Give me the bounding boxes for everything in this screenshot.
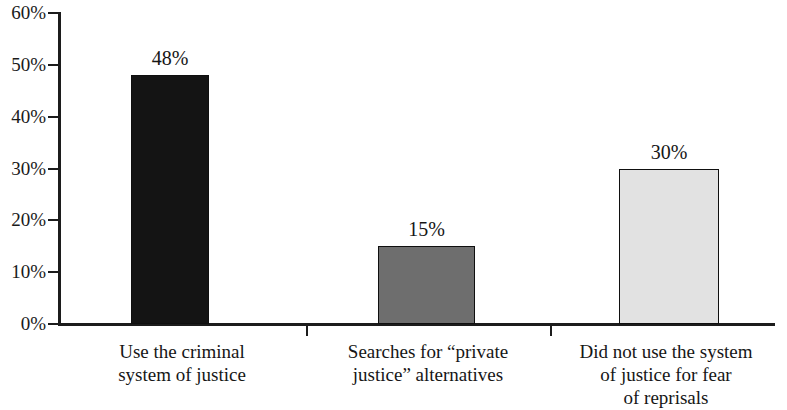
- y-axis-tick-label-text: 20%: [0, 210, 46, 229]
- y-axis-tick-label: 50%: [0, 55, 46, 74]
- category-label-line: system of justice: [62, 363, 302, 386]
- category-label-line: Searches for “private: [308, 340, 548, 363]
- bar: [378, 246, 475, 324]
- category-label-line: of justice for fear: [552, 363, 780, 386]
- x-axis-separator-tick: [550, 325, 552, 336]
- bar-chart: 0%10%20%30%40%50%60% 48%15%30% Use the c…: [0, 0, 787, 410]
- category-label-line: of reprisals: [552, 386, 780, 409]
- y-axis-tick-label: 10%: [0, 262, 46, 281]
- bar: [619, 169, 719, 325]
- category-label: Did not use the systemof justice for fea…: [552, 340, 780, 409]
- category-label-line: Use the criminal: [62, 340, 302, 363]
- y-axis-tick-label-text: 40%: [0, 107, 46, 126]
- y-axis-tick-label: 40%: [0, 107, 46, 126]
- y-axis-line: [58, 12, 61, 326]
- y-axis-tick-label: 30%: [0, 159, 46, 178]
- category-label-line: justice” alternatives: [308, 363, 548, 386]
- y-axis-tick-label-text: 30%: [0, 159, 46, 178]
- y-axis-tick-label: 20%: [0, 210, 46, 229]
- bar-value-label: 30%: [589, 141, 749, 163]
- bar-value-label: 48%: [101, 47, 239, 69]
- y-axis-tick-label-text: 60%: [0, 3, 46, 22]
- y-axis-tick-label: 0%: [0, 314, 46, 333]
- bar: [131, 75, 209, 324]
- y-axis-tick-label-text: 0%: [0, 314, 46, 333]
- y-axis-tick-label: 60%: [0, 3, 46, 22]
- category-label: Use the criminalsystem of justice: [62, 340, 302, 386]
- x-axis-separator-tick: [306, 325, 308, 336]
- y-axis-tick-label-text: 10%: [0, 262, 46, 281]
- y-axis-tick-label-text: 50%: [0, 55, 46, 74]
- category-label: Searches for “privatejustice” alternativ…: [308, 340, 548, 386]
- category-label-line: Did not use the system: [552, 340, 780, 363]
- bar-value-label: 15%: [348, 218, 505, 240]
